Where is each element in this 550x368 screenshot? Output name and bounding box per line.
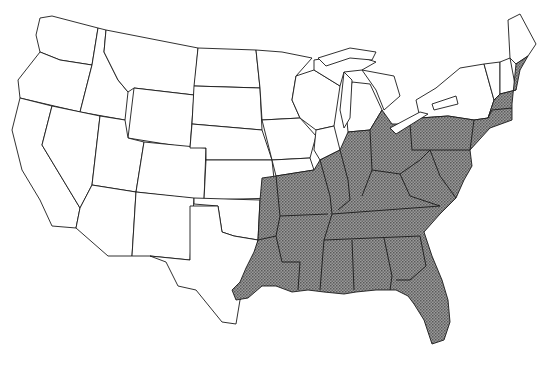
- state-colorado: [136, 142, 206, 200]
- state-new-mexico: [132, 192, 194, 260]
- state-new-york: [416, 64, 494, 120]
- state-north-dakota: [194, 48, 260, 88]
- us-range-map: [0, 0, 550, 368]
- state-maine: [508, 14, 536, 64]
- state-wyoming: [128, 88, 194, 148]
- state-south-dakota: [192, 86, 262, 130]
